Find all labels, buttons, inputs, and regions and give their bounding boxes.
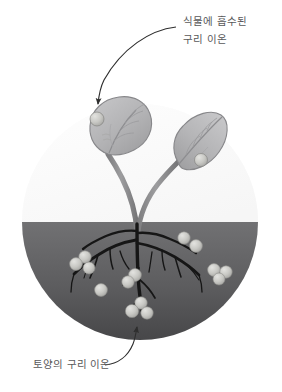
soil-ion <box>95 284 108 297</box>
soil-copper-ion-label: 토양의 구리 이온 <box>33 358 111 370</box>
diagram-canvas: 식물에 흡수된 구리 이온 토양의 구리 이온 <box>0 0 282 392</box>
soil-ion <box>125 304 138 317</box>
plant-absorbed-copper-ion-label: 식물에 흡수된 구리 이온 <box>183 15 247 45</box>
soil-ion <box>141 307 153 319</box>
copper-ion-uptake-diagram: 식물에 흡수된 구리 이온 토양의 구리 이온 <box>0 0 282 392</box>
plant-label-line-1: 식물에 흡수된 <box>183 15 247 27</box>
soil-ion <box>70 258 83 271</box>
plant-label-line-2: 구리 이온 <box>183 33 227 45</box>
plant-uptake-arrow <box>98 27 176 104</box>
soil-ion <box>190 240 203 253</box>
soil-ion <box>178 232 190 244</box>
leaf-ion <box>90 112 104 126</box>
soil-ion <box>213 273 225 285</box>
soil-label-line-1: 토양의 구리 이온 <box>33 358 111 370</box>
leaf-ion <box>195 154 208 167</box>
soil-ion <box>122 276 134 288</box>
soil-ion <box>83 262 95 274</box>
